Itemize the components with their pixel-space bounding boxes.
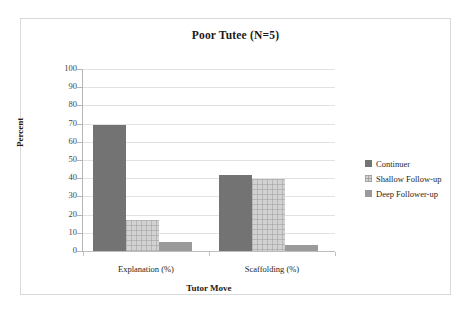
y-axis-title: Percent [15,118,25,147]
y-axis-tick-label: 80 [43,99,77,109]
legend-item-label: Continuer [376,159,410,169]
y-axis-tick-label: 100 [43,63,77,73]
y-axis-tick-label: 90 [43,81,77,91]
legend-swatch-icon [365,190,372,197]
chart-frame: Poor Tutee (N=5) 1009080706050403020100 … [20,18,451,295]
y-axis-tick-label: 0 [43,245,77,255]
y-axis-tick [77,69,82,70]
plot-area [83,69,335,251]
y-axis-tick-label: 40 [43,172,77,182]
y-axis-tick [77,160,82,161]
y-axis-tick-label: 70 [43,118,77,128]
x-axis-tick [209,252,210,256]
y-axis-tick-label: 50 [43,154,77,164]
chart-figure: Poor Tutee (N=5) 1009080706050403020100 … [0,0,471,311]
chart-title: Poor Tutee (N=5) [21,29,450,41]
x-axis-tick [83,252,84,256]
bar-explanation-deep-follower-up [159,242,192,251]
y-axis-tick-label: 20 [43,209,77,219]
bar-explanation-continuer [93,125,126,251]
y-axis-tick [77,87,82,88]
y-axis-tick [77,124,82,125]
gridline [83,87,335,88]
legend-swatch-icon [365,175,372,182]
y-axis-tick-label: 30 [43,190,77,200]
x-axis-category-label: Explanation (%) [83,264,209,274]
y-axis-tick-label: 60 [43,136,77,146]
bar-scaffolding-deep-follower-up [285,245,318,251]
legend-item-label: Deep Follower-up [376,189,438,199]
x-axis-tick [335,252,336,256]
y-axis-tick [77,178,82,179]
y-axis-tick [77,233,82,234]
bar-explanation-shallow-follow-up [126,220,159,251]
y-axis-tick-label: 10 [43,227,77,237]
y-axis-tick [77,196,82,197]
x-axis-category-label: Scaffolding (%) [209,264,335,274]
legend-item-deep-follower-up[interactable]: Deep Follower-up [365,186,469,201]
x-axis-title: Tutor Move [83,283,335,293]
legend-swatch-icon [365,160,372,167]
chart-legend: ContinuerShallow Follow-upDeep Follower-… [365,156,469,201]
y-axis-tick-labels: 1009080706050403020100 [37,19,77,311]
legend-item-label: Shallow Follow-up [376,174,441,184]
legend-item-shallow-follow-up[interactable]: Shallow Follow-up [365,171,469,186]
gridline [83,69,335,70]
legend-item-continuer[interactable]: Continuer [365,156,469,171]
bar-scaffolding-continuer [219,175,252,251]
y-axis-tick [77,105,82,106]
bar-scaffolding-shallow-follow-up [252,179,285,251]
gridline [83,105,335,106]
y-axis-tick [77,251,82,252]
y-axis-tick [77,142,82,143]
y-axis-tick [77,215,82,216]
